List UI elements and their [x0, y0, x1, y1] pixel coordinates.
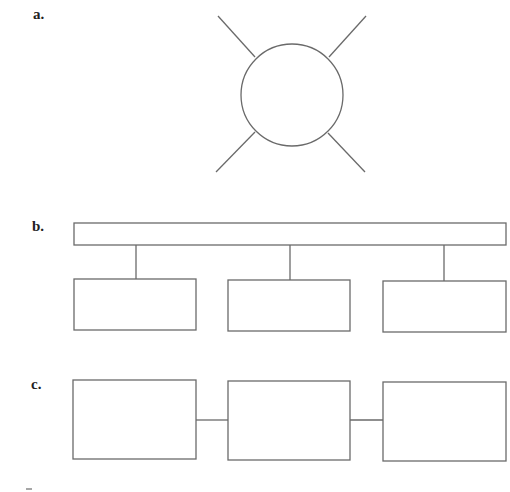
bus-node-1 [74, 279, 196, 330]
hub-circle [241, 44, 343, 146]
spoke-top-left [218, 16, 255, 57]
bus-bar [74, 223, 506, 245]
spoke-bottom-right [328, 133, 365, 172]
topology-diagram [0, 0, 510, 492]
chain-node-2 [228, 381, 350, 460]
spoke-bottom-left [216, 132, 255, 172]
chain-node-3 [383, 382, 506, 461]
star-topology [216, 16, 366, 172]
bus-topology [74, 223, 506, 332]
chain-topology [73, 380, 506, 461]
bus-node-2 [228, 280, 350, 331]
spoke-top-right [329, 16, 366, 57]
chain-node-1 [73, 380, 196, 459]
bus-node-3 [383, 281, 506, 332]
